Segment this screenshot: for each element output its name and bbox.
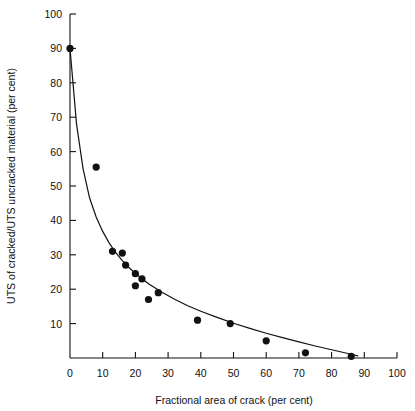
y-tick-label: 30 bbox=[50, 249, 62, 261]
y-tick-label: 90 bbox=[50, 42, 62, 54]
fit-curve-path bbox=[70, 48, 358, 356]
data-point bbox=[93, 163, 100, 170]
data-point bbox=[227, 320, 234, 327]
x-tick-label: 80 bbox=[326, 367, 338, 379]
x-tick-label: 40 bbox=[195, 367, 207, 379]
data-point bbox=[348, 353, 355, 360]
y-axis-title: UTS of cracked/UTS uncracked material (p… bbox=[5, 68, 17, 304]
y-tick-label: 20 bbox=[50, 283, 62, 295]
fit-curve bbox=[70, 48, 358, 356]
data-point bbox=[302, 349, 309, 356]
data-point bbox=[155, 289, 162, 296]
data-point bbox=[132, 282, 139, 289]
x-axis-ticks: 0102030405060708090100 bbox=[67, 352, 406, 379]
y-tick-label: 100 bbox=[44, 8, 62, 20]
axes-group bbox=[70, 14, 397, 358]
x-tick-label: 0 bbox=[67, 367, 73, 379]
x-tick-label: 70 bbox=[293, 367, 305, 379]
y-tick-label: 70 bbox=[50, 111, 62, 123]
x-tick-label: 90 bbox=[358, 367, 370, 379]
data-point bbox=[263, 337, 270, 344]
chart-container: 102030405060708090100 010203040506070809… bbox=[0, 0, 415, 411]
data-point bbox=[122, 262, 129, 269]
data-points bbox=[66, 45, 354, 360]
data-point bbox=[138, 275, 145, 282]
data-point bbox=[132, 270, 139, 277]
x-tick-label: 20 bbox=[130, 367, 142, 379]
data-point bbox=[145, 296, 152, 303]
x-tick-label: 60 bbox=[260, 367, 272, 379]
x-tick-label: 50 bbox=[228, 367, 240, 379]
y-tick-label: 80 bbox=[50, 77, 62, 89]
data-point bbox=[66, 45, 73, 52]
x-tick-label: 10 bbox=[97, 367, 109, 379]
x-tick-label: 100 bbox=[388, 367, 406, 379]
x-tick-label: 30 bbox=[162, 367, 174, 379]
data-point bbox=[119, 249, 126, 256]
y-tick-label: 10 bbox=[50, 318, 62, 330]
data-point bbox=[194, 317, 201, 324]
y-tick-label: 40 bbox=[50, 214, 62, 226]
scatter-plot: 102030405060708090100 010203040506070809… bbox=[0, 0, 415, 411]
y-tick-label: 50 bbox=[50, 180, 62, 192]
y-tick-label: 60 bbox=[50, 146, 62, 158]
x-axis-title: Fractional area of crack (per cent) bbox=[155, 394, 313, 406]
data-point bbox=[109, 248, 116, 255]
